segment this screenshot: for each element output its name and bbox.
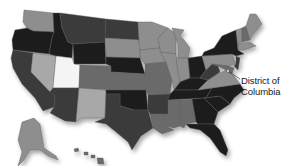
state-hawaii[interactable] — [74, 148, 104, 164]
state-arizona[interactable] — [50, 88, 79, 122]
state-new-mexico[interactable] — [76, 88, 106, 122]
dc-label-line2: Columbia — [241, 87, 280, 98]
state-arkansas[interactable] — [148, 94, 170, 114]
us-choropleth-map: District of Columbia — [0, 0, 287, 166]
state-massachusetts[interactable] — [238, 42, 256, 50]
state-north-dakota[interactable] — [105, 19, 139, 40]
state-nebraska[interactable] — [106, 57, 145, 74]
state-south-dakota[interactable] — [105, 38, 140, 58]
state-kansas[interactable] — [110, 72, 146, 90]
state-florida[interactable] — [186, 124, 228, 156]
state-colorado[interactable] — [79, 65, 111, 90]
state-alaska[interactable] — [18, 118, 58, 166]
state-oregon[interactable] — [12, 28, 54, 54]
dc-marker — [227, 70, 230, 73]
dc-callout-label: District of Columbia — [241, 76, 280, 97]
state-montana[interactable] — [60, 13, 106, 44]
dc-label-line1: District of — [241, 76, 280, 87]
state-wyoming[interactable] — [73, 42, 106, 64]
